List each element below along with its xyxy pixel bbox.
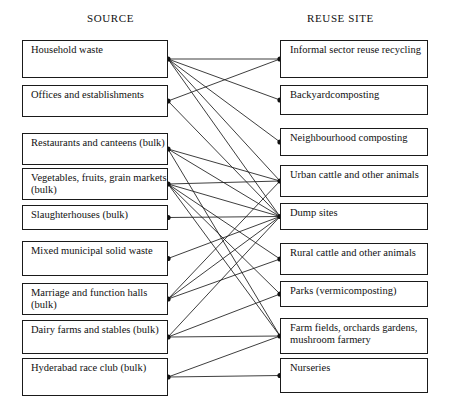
node-label: Parks (vermicomposting) bbox=[290, 285, 396, 296]
source-node-marriage-and-function-halls-bulk: Marriage and function halls (bulk) bbox=[22, 283, 168, 315]
reuse-node-urban-cattle-and-other-animals: Urban cattle and other animals bbox=[280, 165, 428, 197]
edge-s8-to-r5 bbox=[168, 217, 280, 338]
node-label: Farm fields, orchards gardens, mushroom … bbox=[290, 322, 417, 345]
edge-s7-to-r4 bbox=[168, 181, 280, 299]
reuse-node-backyardcomposting: Backyardcomposting bbox=[280, 85, 428, 115]
edge-s3-to-r4 bbox=[168, 149, 280, 181]
edge-s7-to-r6 bbox=[168, 259, 280, 299]
edge-s4-to-r4 bbox=[168, 181, 280, 184]
node-label: Neighbourhood composting bbox=[290, 132, 408, 143]
node-label: Slaughterhouses (bulk) bbox=[31, 209, 128, 220]
edge-s7-to-r5 bbox=[168, 217, 280, 300]
source-reuse-flow-diagram: SOURCE REUSE SITE Household wasteOffices… bbox=[0, 0, 451, 414]
edge-s3-to-r8 bbox=[168, 149, 280, 336]
edge-s8-to-r7 bbox=[168, 294, 280, 337]
reuse-node-informal-sector-reuse-recycling: Informal sector reuse recycling bbox=[280, 40, 428, 78]
edge-s9-to-r9 bbox=[168, 376, 280, 378]
source-node-slaughterhouses-bulk: Slaughterhouses (bulk) bbox=[22, 205, 168, 230]
source-node-vegetables-fruits-grain-markets-bulk: Vegetables, fruits, grain markets (bulk) bbox=[22, 168, 168, 200]
node-label: Dairy farms and stables (bulk) bbox=[31, 324, 159, 335]
edge-s6-to-r5 bbox=[168, 217, 280, 259]
source-node-offices-and-establishments: Offices and establishments bbox=[22, 85, 168, 117]
source-node-household-waste: Household waste bbox=[22, 40, 168, 78]
node-label: Dump sites bbox=[290, 207, 338, 218]
reuse-node-dump-sites: Dump sites bbox=[280, 203, 428, 230]
reuse-node-farm-fields-orchards-gardens-mushroom-fa: Farm fields, orchards gardens, mushroom … bbox=[280, 318, 428, 354]
edge-s8-to-r8 bbox=[168, 336, 280, 337]
edge-s9-to-r8 bbox=[168, 336, 280, 377]
edge-s1-to-r5 bbox=[168, 59, 280, 217]
node-label: Household waste bbox=[31, 44, 103, 55]
edge-s5-to-r5 bbox=[168, 217, 280, 218]
reuse-node-parks-vermicomposting: Parks (vermicomposting) bbox=[280, 281, 428, 307]
node-label: Backyardcomposting bbox=[290, 89, 379, 100]
node-label: Restaurants and canteens (bulk) bbox=[31, 137, 165, 148]
node-label: Offices and establishments bbox=[31, 89, 144, 100]
node-label: Vegetables, fruits, grain markets (bulk) bbox=[31, 172, 167, 195]
source-node-restaurants-and-canteens-bulk: Restaurants and canteens (bulk) bbox=[22, 133, 168, 165]
reuse-node-rural-cattle-and-other-animals: Rural cattle and other animals bbox=[280, 243, 428, 275]
node-label: Marriage and function halls (bulk) bbox=[31, 287, 147, 310]
node-label: Urban cattle and other animals bbox=[290, 169, 419, 180]
edge-s1-to-r3 bbox=[168, 59, 280, 142]
node-label: Nurseries bbox=[290, 362, 330, 373]
source-node-mixed-municipal-solid-waste: Mixed municipal solid waste bbox=[22, 241, 168, 276]
node-label: Hyderabad race club (bulk) bbox=[31, 362, 146, 373]
node-label: Mixed municipal solid waste bbox=[31, 245, 153, 256]
edge-s4-to-r6 bbox=[168, 184, 280, 259]
reuse-node-neighbourhood-composting: Neighbourhood composting bbox=[280, 128, 428, 156]
node-label: Rural cattle and other animals bbox=[290, 247, 416, 258]
source-node-hyderabad-race-club-bulk: Hyderabad race club (bulk) bbox=[22, 358, 168, 396]
reuse-node-nurseries: Nurseries bbox=[280, 358, 428, 393]
edge-s1-to-r4 bbox=[168, 59, 280, 181]
source-node-dairy-farms-and-stables-bulk: Dairy farms and stables (bulk) bbox=[22, 320, 168, 354]
node-label: Informal sector reuse recycling bbox=[290, 44, 421, 55]
